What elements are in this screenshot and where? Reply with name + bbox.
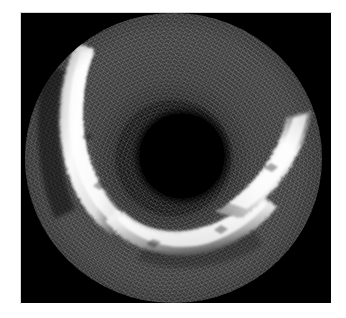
ultrasound-image-frame	[21, 13, 331, 303]
scan-field-of-view-disc	[25, 13, 322, 303]
page-root	[0, 0, 346, 318]
central-lumen	[139, 113, 225, 199]
